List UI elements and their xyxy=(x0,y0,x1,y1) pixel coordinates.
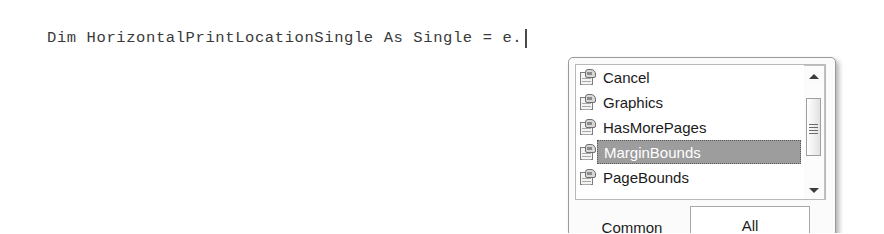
list-item-row[interactable]: Graphics xyxy=(576,90,804,115)
property-icon xyxy=(580,119,597,136)
code-line[interactable]: Dim HorizontalPrintLocationSingle As Sin… xyxy=(47,28,527,48)
list-item[interactable]: PageBounds xyxy=(576,165,804,190)
list-item-label: HasMorePages xyxy=(603,119,706,136)
scrollbar-grip-icon xyxy=(809,127,818,128)
list-item-selected[interactable]: MarginBounds xyxy=(576,140,804,165)
tab-all-label: All xyxy=(742,217,759,233)
property-icon xyxy=(580,69,597,86)
list-item-row[interactable]: PageBounds xyxy=(576,165,804,190)
tab-common[interactable]: Common xyxy=(577,210,687,233)
property-icon xyxy=(580,144,597,161)
tab-all[interactable]: All xyxy=(690,206,810,233)
member-list-scrollbar[interactable] xyxy=(804,65,825,200)
intellisense-tabstrip: Common All xyxy=(575,204,826,233)
tab-common-label: Common xyxy=(602,219,663,234)
scroll-down-button[interactable] xyxy=(804,181,824,199)
list-item-row[interactable]: Cancel xyxy=(576,65,804,90)
list-item-label: Cancel xyxy=(603,69,650,86)
member-list[interactable]: Cancel Graphics xyxy=(575,64,826,200)
text-caret xyxy=(525,29,527,48)
scroll-up-arrow-icon xyxy=(809,74,819,79)
list-item[interactable]: Graphics xyxy=(576,90,804,115)
list-item[interactable]: Cancel xyxy=(576,65,804,90)
list-item[interactable]: HasMorePages xyxy=(576,115,804,140)
intellisense-popup[interactable]: Cancel Graphics xyxy=(568,57,836,233)
list-item-label: PageBounds xyxy=(603,169,689,186)
code-line-text: Dim HorizontalPrintLocationSingle As Sin… xyxy=(47,28,522,48)
list-item-label: MarginBounds xyxy=(604,144,701,161)
scroll-down-arrow-icon xyxy=(809,188,819,193)
scrollbar-thumb[interactable] xyxy=(806,98,821,156)
list-item-label: Graphics xyxy=(603,94,663,111)
list-item-row-selected[interactable]: MarginBounds xyxy=(597,140,801,164)
property-icon xyxy=(580,94,597,111)
list-item-row[interactable]: HasMorePages xyxy=(576,115,804,140)
property-icon xyxy=(580,169,597,186)
scroll-up-button[interactable] xyxy=(804,67,824,85)
